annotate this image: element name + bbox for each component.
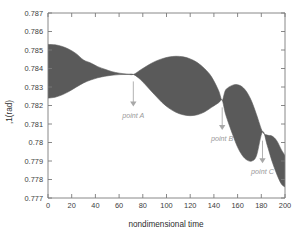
y-tick-label: 0.778 <box>25 175 44 184</box>
y-tick-label: 0.777 <box>25 194 44 203</box>
annotation-label: point B <box>210 134 234 143</box>
y-tick-label: 0.779 <box>25 157 44 166</box>
y-tick-label: 0.785 <box>25 46 44 55</box>
y-tick-label: 0.784 <box>25 64 44 73</box>
y-tick-label: 0.786 <box>25 27 44 36</box>
y-axis-label: ,1(rad) <box>5 100 14 124</box>
x-tick-label: 140 <box>208 201 220 210</box>
x-tick-label: 60 <box>115 201 123 210</box>
x-tick-label: 80 <box>139 201 147 210</box>
chart-figure: 020406080100120140160180200 0.7770.7780.… <box>0 0 303 235</box>
x-tick-label: 100 <box>160 201 172 210</box>
annotation-label: point A <box>121 111 144 120</box>
y-tick-label: 0.781 <box>25 120 44 129</box>
x-tick-label: 160 <box>231 201 243 210</box>
y-tick-label: 0.787 <box>25 9 44 18</box>
chart-screenshot: 020406080100120140160180200 0.7770.7780.… <box>0 0 303 235</box>
annotation-label: point C <box>250 167 275 176</box>
x-tick-label: 0 <box>46 201 50 210</box>
x-tick-label: 20 <box>68 201 76 210</box>
x-tick-label: 180 <box>255 201 267 210</box>
y-tick-label: 0.78 <box>29 138 43 147</box>
x-tick-label: 200 <box>279 201 291 210</box>
x-tick-label: 40 <box>91 201 99 210</box>
y-tick-label: 0.783 <box>25 83 44 92</box>
x-tick-label: 120 <box>184 201 196 210</box>
y-tick-label: 0.782 <box>25 101 44 110</box>
x-axis-label: nondimensional time <box>128 220 204 229</box>
